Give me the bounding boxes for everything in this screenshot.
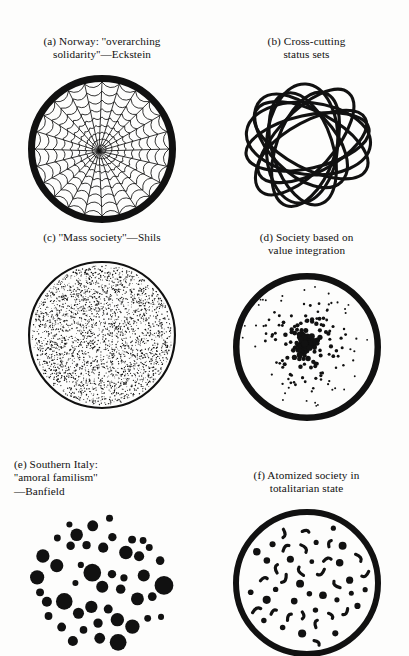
panel-b-diagram (232, 68, 382, 218)
panel-e-caption: (e) Southern Italy: ''amoral familism'' … (0, 458, 102, 498)
panel-f-caption: (f) Atomized society in totalitarian sta… (250, 469, 364, 496)
panel-a-caption: (a) Norway: ''overarching solidarity''—E… (39, 35, 164, 62)
panel-a: (a) Norway: ''overarching solidarity''—E… (0, 0, 204, 218)
panel-b-caption: (b) Cross-cutting status sets (264, 35, 350, 62)
panel-f-diagram (232, 508, 382, 656)
panel-c: (c) ''Mass society''—Shils (0, 218, 204, 428)
panel-c-caption: (c) ''Mass society''—Shils (39, 231, 165, 244)
panel-c-diagram (27, 260, 177, 410)
panel-b: (b) Cross-cutting status sets (204, 0, 409, 218)
panel-a-diagram (27, 74, 177, 224)
panel-e: (e) Southern Italy: ''amoral familism'' … (0, 428, 204, 656)
panel-f: (f) Atomized society in totalitarian sta… (204, 428, 409, 656)
figure-social-structure-models: (a) Norway: ''overarching solidarity''—E… (0, 0, 409, 656)
panel-e-diagram (27, 508, 177, 656)
panel-d-caption: (d) Society based on value integration (256, 231, 358, 258)
panel-d: (d) Society based on value integration (204, 218, 409, 428)
panel-d-diagram (232, 272, 382, 422)
